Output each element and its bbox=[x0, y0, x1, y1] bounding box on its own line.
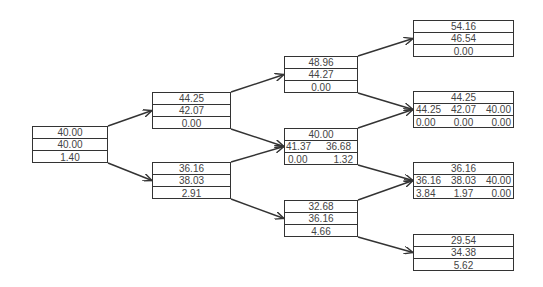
tree-node: 40.0040.001.40 bbox=[32, 126, 108, 163]
tree-node: 36.1638.032.91 bbox=[152, 162, 231, 199]
tree-node: 54.1646.540.00 bbox=[413, 20, 514, 57]
node-value: 54.16 bbox=[451, 21, 476, 32]
node-row: 5.62 bbox=[414, 259, 513, 271]
node-value: 3.84 bbox=[416, 188, 435, 199]
node-row: 48.96 bbox=[285, 57, 357, 69]
node-value: 0.00 bbox=[454, 117, 473, 128]
node-value: 0.00 bbox=[454, 46, 473, 57]
node-value: 4.66 bbox=[311, 226, 330, 237]
tree-node: 29.5434.385.62 bbox=[413, 234, 514, 271]
node-row: 0.000.000.00 bbox=[414, 116, 513, 128]
edge-arrow bbox=[231, 75, 284, 93]
node-value: 38.03 bbox=[179, 175, 204, 186]
node-row: 0.00 bbox=[153, 117, 230, 129]
tree-node: 40.0041.3736.680.001.32 bbox=[284, 128, 358, 165]
node-row: 44.25 bbox=[153, 93, 230, 105]
edge-arrow bbox=[108, 111, 152, 127]
node-value: 44.27 bbox=[308, 69, 333, 80]
node-row: 32.68 bbox=[285, 201, 357, 213]
node-value: 36.68 bbox=[326, 141, 351, 152]
edge-arrow bbox=[231, 199, 284, 219]
node-row: 40.00 bbox=[33, 127, 107, 139]
node-row: 41.3736.68 bbox=[285, 141, 357, 153]
node-value: 32.68 bbox=[308, 201, 333, 212]
node-value: 1.32 bbox=[334, 154, 353, 165]
node-row: 44.25 bbox=[414, 92, 513, 104]
node-value: 36.16 bbox=[416, 175, 441, 186]
node-value: 36.16 bbox=[451, 163, 476, 174]
node-row: 0.001.32 bbox=[285, 153, 357, 165]
node-value: 1.97 bbox=[454, 188, 473, 199]
node-value: 34.38 bbox=[451, 247, 476, 258]
node-row: 3.841.970.00 bbox=[414, 187, 513, 199]
node-value: 0.00 bbox=[492, 188, 511, 199]
edge-arrow bbox=[358, 110, 413, 129]
node-value: 36.16 bbox=[308, 213, 333, 224]
tree-node: 36.1636.1638.0340.003.841.970.00 bbox=[413, 162, 514, 199]
node-value: 40.00 bbox=[308, 129, 333, 140]
node-row: 54.16 bbox=[414, 21, 513, 33]
node-value: 0.00 bbox=[311, 82, 330, 93]
edge-arrow bbox=[358, 39, 413, 57]
node-row: 44.2542.0740.00 bbox=[414, 104, 513, 116]
node-row: 36.16 bbox=[285, 213, 357, 225]
node-value: 44.25 bbox=[416, 104, 441, 115]
edge-arrow bbox=[358, 237, 413, 253]
node-value: 5.62 bbox=[454, 260, 473, 271]
node-value: 38.03 bbox=[451, 175, 476, 186]
tree-node: 32.6836.164.66 bbox=[284, 200, 358, 237]
node-value: 40.00 bbox=[486, 104, 511, 115]
node-row: 29.54 bbox=[414, 235, 513, 247]
edge-arrow bbox=[108, 163, 152, 181]
edge-arrow bbox=[231, 147, 284, 163]
node-value: 40.00 bbox=[57, 139, 82, 150]
node-row: 36.16 bbox=[153, 163, 230, 175]
node-row: 36.1638.0340.00 bbox=[414, 175, 513, 187]
edge-arrow bbox=[358, 181, 413, 201]
node-value: 0.00 bbox=[492, 117, 511, 128]
node-row: 1.40 bbox=[33, 151, 107, 163]
node-row: 34.38 bbox=[414, 247, 513, 259]
node-value: 2.91 bbox=[182, 188, 201, 199]
tree-node: 48.9644.270.00 bbox=[284, 56, 358, 93]
node-value: 0.00 bbox=[182, 118, 201, 129]
node-value: 0.00 bbox=[416, 117, 435, 128]
edge-group bbox=[108, 39, 413, 253]
node-value: 36.16 bbox=[179, 163, 204, 174]
tree-node: 44.2542.070.00 bbox=[152, 92, 231, 129]
node-row: 42.07 bbox=[153, 105, 230, 117]
edge-arrow bbox=[231, 129, 284, 147]
node-row: 0.00 bbox=[285, 81, 357, 93]
node-value: 0.00 bbox=[288, 154, 307, 165]
node-row: 46.54 bbox=[414, 33, 513, 45]
node-value: 40.00 bbox=[57, 127, 82, 138]
tree-node: 44.2544.2542.0740.000.000.000.00 bbox=[413, 91, 514, 128]
node-value: 48.96 bbox=[308, 57, 333, 68]
edge-arrow bbox=[358, 165, 413, 181]
node-value: 29.54 bbox=[451, 235, 476, 246]
node-value: 44.25 bbox=[179, 93, 204, 104]
node-row: 0.00 bbox=[414, 45, 513, 57]
node-row: 2.91 bbox=[153, 187, 230, 199]
edge-arrow bbox=[358, 93, 413, 110]
node-row: 40.00 bbox=[33, 139, 107, 151]
node-value: 44.25 bbox=[451, 92, 476, 103]
node-row: 4.66 bbox=[285, 225, 357, 237]
node-row: 36.16 bbox=[414, 163, 513, 175]
node-row: 44.27 bbox=[285, 69, 357, 81]
node-value: 42.07 bbox=[451, 104, 476, 115]
node-value: 42.07 bbox=[179, 105, 204, 116]
node-row: 38.03 bbox=[153, 175, 230, 187]
node-value: 40.00 bbox=[486, 175, 511, 186]
node-value: 41.37 bbox=[286, 141, 311, 152]
node-row: 40.00 bbox=[285, 129, 357, 141]
node-value: 1.40 bbox=[60, 152, 79, 163]
node-value: 46.54 bbox=[451, 33, 476, 44]
